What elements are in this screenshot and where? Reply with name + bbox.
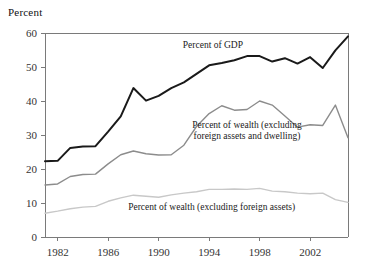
y-tick-label: 0: [32, 231, 38, 243]
series-line-0: [45, 36, 348, 161]
chart-figure: Percent 01020304050601982198619901994199…: [0, 0, 378, 273]
y-tick-label: 10: [26, 197, 38, 209]
x-tick-label: 1986: [97, 246, 120, 258]
series-line-1: [45, 101, 348, 185]
x-tick-label: 1990: [148, 246, 171, 258]
x-tick-label: 2002: [299, 246, 321, 258]
x-tick-label: 1994: [198, 246, 221, 258]
percent-of-wealth-ex-foreign-dwelling-label: foreign assets and dwelling): [194, 131, 301, 142]
x-tick-label: 1982: [47, 246, 69, 258]
series-annotations: Percent of GDPPercent of wealth (excludi…: [128, 40, 302, 213]
x-tick-label: 1998: [249, 246, 272, 258]
y-tick-label: 60: [26, 27, 38, 39]
line-chart-plot: 0102030405060198219861990199419982002 Pe…: [0, 0, 378, 273]
percent-of-gdp-label: Percent of GDP: [183, 40, 243, 50]
y-tick-label: 20: [26, 163, 38, 175]
y-tick-label: 30: [26, 129, 38, 141]
y-tick-label: 50: [26, 61, 38, 73]
y-tick-label: 40: [26, 95, 38, 107]
percent-of-wealth-ex-foreign-label: Percent of wealth (excluding foreign ass…: [128, 202, 295, 213]
percent-of-wealth-ex-foreign-dwelling-label: Percent of wealth (excluding: [192, 120, 302, 131]
